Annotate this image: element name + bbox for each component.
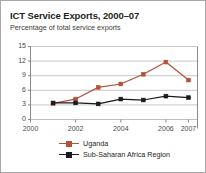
data-point-0-5 xyxy=(164,60,168,64)
x-tick-label-2000: 2000 xyxy=(18,125,44,132)
legend-item-ssa[interactable]: Sub-Saharan Africa Region xyxy=(59,149,170,160)
data-point-1-1 xyxy=(74,101,78,105)
legend-swatch-uganda xyxy=(59,139,79,148)
y-tick-label-6: 6 xyxy=(12,86,26,93)
data-point-1-3 xyxy=(119,97,123,101)
data-point-0-4 xyxy=(141,72,145,76)
legend-swatch-ssa xyxy=(59,150,79,159)
x-tick-label-2004: 2004 xyxy=(108,125,134,132)
data-point-1-5 xyxy=(164,94,168,98)
data-point-0-2 xyxy=(96,85,100,89)
y-tick-label-0: 0 xyxy=(12,115,26,122)
data-point-1-2 xyxy=(96,102,100,106)
data-point-0-3 xyxy=(119,82,123,86)
legend-item-uganda[interactable]: Uganda xyxy=(59,138,170,149)
chart-legend: Uganda Sub-Saharan Africa Region xyxy=(59,138,170,160)
data-point-0-1 xyxy=(74,97,78,101)
data-point-1-4 xyxy=(141,98,145,102)
legend-label-ssa: Sub-Saharan Africa Region xyxy=(83,150,170,159)
y-tick-label-3: 3 xyxy=(12,100,26,107)
y-tick-label-9: 9 xyxy=(12,71,26,78)
x-tick-label-2007: 2007 xyxy=(175,125,201,132)
y-tick-label-12: 12 xyxy=(12,57,26,64)
legend-label-uganda: Uganda xyxy=(83,139,108,148)
data-point-1-0 xyxy=(51,101,55,105)
chart-figure: ICT Service Exports, 2000–07 Percentage … xyxy=(0,0,206,173)
y-tick-label-15: 15 xyxy=(12,42,26,49)
data-point-1-6 xyxy=(187,96,191,100)
data-point-0-6 xyxy=(187,78,191,82)
x-tick-label-2002: 2002 xyxy=(63,125,89,132)
